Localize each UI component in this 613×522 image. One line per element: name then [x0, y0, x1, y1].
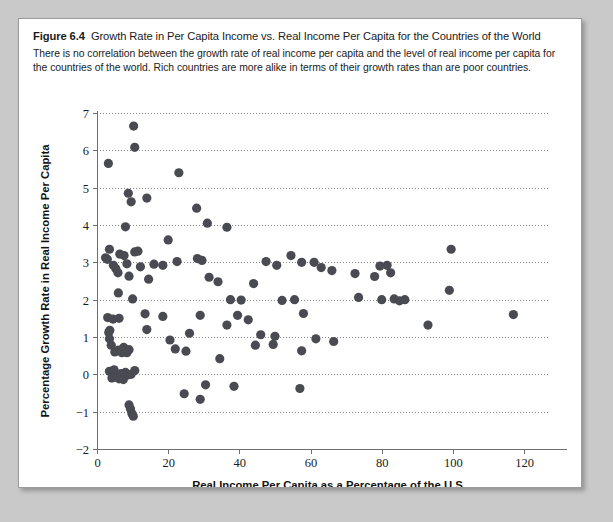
data-point [171, 344, 180, 353]
data-point [222, 223, 231, 232]
y-tick-label-2: 2 [83, 294, 89, 308]
data-point [133, 247, 142, 256]
data-point [136, 262, 145, 271]
data-point [270, 332, 279, 341]
data-point [172, 257, 181, 266]
data-point [213, 277, 222, 286]
data-points-group [101, 121, 518, 420]
data-point [297, 258, 306, 267]
data-point [119, 251, 128, 260]
data-point [158, 312, 167, 321]
x-tick-labels: 020406080100120 [94, 456, 534, 470]
data-point [233, 311, 242, 320]
x-tick-label-80: 80 [376, 456, 389, 470]
data-point [377, 295, 386, 304]
scatter-plot: 020406080100120 −2−101234567 Real Income… [19, 19, 582, 488]
x-axis-title: Real Income Per Capita as a Percentage o… [192, 479, 466, 488]
data-point [317, 263, 326, 272]
y-tick-label--2: −2 [76, 443, 89, 457]
data-point [201, 380, 210, 389]
data-point [121, 222, 130, 231]
data-point [185, 329, 194, 338]
data-point [244, 315, 253, 324]
data-point [105, 326, 114, 335]
data-point [104, 159, 113, 168]
data-point [386, 268, 395, 277]
data-point [286, 251, 295, 260]
data-point [113, 268, 122, 277]
data-point [237, 295, 246, 304]
data-point [140, 309, 149, 318]
figure-background: Figure 6.4 Growth Rate in Per Capita Inc… [0, 0, 613, 522]
data-point [445, 286, 454, 295]
data-point [124, 189, 133, 198]
data-point [272, 261, 281, 270]
data-point [130, 366, 139, 375]
y-tick-labels: −2−101234567 [76, 107, 90, 457]
y-tick-label-4: 4 [83, 219, 90, 233]
data-point [423, 320, 432, 329]
ticks-group [93, 114, 525, 455]
data-point [122, 259, 131, 268]
data-point [144, 275, 153, 284]
data-point [277, 296, 286, 305]
data-point [269, 340, 278, 349]
data-point [129, 412, 138, 421]
data-point [400, 295, 409, 304]
data-point [181, 347, 190, 356]
figure-card: Figure 6.4 Growth Rate in Per Capita Inc… [18, 18, 582, 488]
x-tick-label-60: 60 [305, 456, 318, 470]
data-point [299, 309, 308, 318]
data-point [192, 204, 201, 213]
data-point [251, 341, 260, 350]
data-point [130, 143, 139, 152]
data-point [329, 337, 338, 346]
data-point [128, 294, 137, 303]
data-point [114, 288, 123, 297]
data-point [129, 121, 138, 130]
y-tick-label--1: −1 [76, 406, 89, 420]
y-axis-title: Percentage Growth Rate in Real Income Pe… [39, 144, 51, 418]
data-point [290, 295, 299, 304]
data-point [327, 266, 336, 275]
data-point [350, 269, 359, 278]
data-point [180, 389, 189, 398]
data-point [158, 261, 167, 270]
data-point [354, 293, 363, 302]
data-point [127, 197, 136, 206]
data-point [142, 194, 151, 203]
data-point [311, 334, 320, 343]
data-point [509, 310, 518, 319]
y-tick-label-0: 0 [83, 368, 89, 382]
data-point [295, 384, 304, 393]
data-point [124, 345, 133, 354]
y-tick-label-5: 5 [83, 182, 89, 196]
data-point [197, 256, 206, 265]
y-tick-label-7: 7 [83, 107, 89, 121]
data-point [114, 314, 123, 323]
data-point [164, 235, 173, 244]
data-point [226, 295, 235, 304]
x-tick-label-20: 20 [162, 456, 175, 470]
x-tick-label-40: 40 [234, 456, 247, 470]
y-tick-label-1: 1 [83, 331, 89, 345]
data-point [215, 354, 224, 363]
data-point [174, 168, 183, 177]
plot-svg: 020406080100120 −2−101234567 Real Income… [19, 19, 582, 488]
data-point [249, 279, 258, 288]
data-point [205, 273, 214, 282]
data-point [142, 325, 151, 334]
y-tick-label-3: 3 [83, 256, 89, 270]
x-tick-label-120: 120 [515, 456, 534, 470]
data-point [229, 382, 238, 391]
data-point [261, 257, 270, 266]
data-point [124, 272, 133, 281]
data-point [149, 260, 158, 269]
data-point [203, 219, 212, 228]
data-point [370, 272, 379, 281]
data-point [165, 335, 174, 344]
data-point [105, 245, 114, 254]
data-point [447, 245, 456, 254]
data-point [256, 330, 265, 339]
data-point [222, 320, 231, 329]
